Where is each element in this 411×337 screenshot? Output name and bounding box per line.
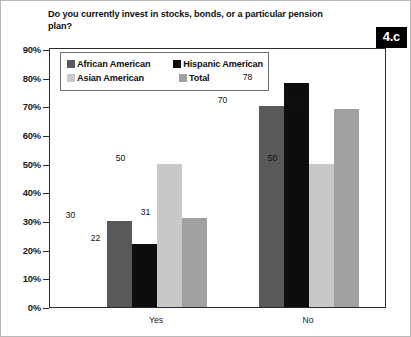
chart-title: Do you currently invest in stocks, bonds… <box>48 8 348 32</box>
y-axis-tick-label: 60% <box>1 130 41 141</box>
y-axis-tick-mark <box>43 251 49 252</box>
bar-value-label: 31 <box>133 207 158 217</box>
bar-value-label: 50 <box>108 153 133 163</box>
y-axis-tick-label: 70% <box>1 101 41 112</box>
bar-yes-total <box>182 218 207 307</box>
bar-value-label: 22 <box>83 233 108 243</box>
bar-value-label: 70 <box>210 95 235 105</box>
bar-no-hispanic-american <box>284 83 309 307</box>
legend-row: African American Hispanic American <box>67 57 263 71</box>
figure-container: Do you currently invest in stocks, bonds… <box>0 0 411 337</box>
y-axis-tick-label: 20% <box>1 245 41 256</box>
y-axis-tick-mark <box>43 193 49 194</box>
y-axis-tick-label: 40% <box>1 187 41 198</box>
y-axis-tick-mark <box>43 79 49 80</box>
legend-item-african-american: African American <box>67 59 173 69</box>
legend-swatch-icon <box>67 60 75 68</box>
y-axis-tick-mark <box>43 279 49 280</box>
figure-number-badge: 4.c <box>376 27 407 48</box>
bar-value-label: 69 <box>285 98 310 108</box>
x-axis-category-label: No <box>258 315 358 325</box>
bar-no-total <box>334 109 359 307</box>
bar-no-african-american <box>259 106 284 307</box>
bar-yes-hispanic-american <box>132 244 157 307</box>
y-axis-tick-mark <box>43 50 49 51</box>
y-axis-tick-mark <box>43 222 49 223</box>
legend-swatch-icon <box>67 74 75 82</box>
bar-value-label: 78 <box>235 72 260 82</box>
y-axis-tick-label: 30% <box>1 216 41 227</box>
legend-label: African American <box>77 59 150 69</box>
legend-item-total: Total <box>179 73 210 83</box>
y-axis-tick-label: 80% <box>1 73 41 84</box>
y-axis-tick-label: 10% <box>1 273 41 284</box>
bar-value-label: 30 <box>58 210 83 220</box>
y-axis-tick-mark <box>43 308 49 309</box>
legend-item-asian-american: Asian American <box>67 73 179 83</box>
legend-label: Total <box>189 73 210 83</box>
legend-label: Asian American <box>77 73 144 83</box>
y-axis-tick-label: 50% <box>1 159 41 170</box>
legend-row: Asian American Total <box>67 71 263 85</box>
bar-yes-african-american <box>107 221 132 307</box>
x-axis-category-label: Yes <box>106 315 206 325</box>
legend-swatch-icon <box>173 60 181 68</box>
legend-swatch-icon <box>179 74 187 82</box>
bar-no-asian-american <box>309 164 334 307</box>
y-axis-tick-mark <box>43 165 49 166</box>
legend-label: Hispanic American <box>183 59 263 69</box>
plot-area: African American Hispanic American Asian… <box>49 48 386 308</box>
y-axis-tick-label: 0% <box>1 302 41 313</box>
y-axis-tick-mark <box>43 107 49 108</box>
bar-yes-asian-american <box>157 164 182 307</box>
y-axis-tick-mark <box>43 136 49 137</box>
y-axis-tick-label: 90% <box>1 44 41 55</box>
bar-value-label: 50 <box>260 153 285 163</box>
legend-item-hispanic-american: Hispanic American <box>173 59 263 69</box>
